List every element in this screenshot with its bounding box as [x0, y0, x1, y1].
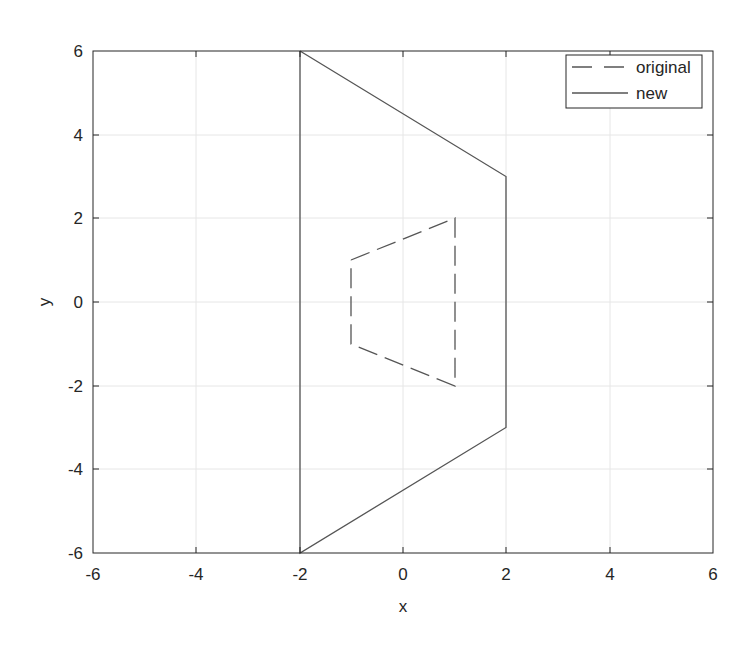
y-tick-label: -6 [68, 544, 83, 563]
x-axis-label: x [399, 597, 408, 616]
y-tick-label: 2 [74, 209, 83, 228]
x-tick-label: 6 [708, 565, 717, 584]
x-tick-labels: -6 -4 -2 0 2 4 6 [85, 565, 717, 584]
x-tick-label: 0 [398, 565, 407, 584]
y-tick-label: 0 [74, 293, 83, 312]
y-tick-labels: 6 4 2 0 -2 -4 -6 [68, 42, 83, 563]
legend-label-new: new [636, 84, 668, 103]
y-tick-label: -4 [68, 460, 83, 479]
y-axis-label: y [35, 297, 54, 306]
legend: original new [566, 55, 702, 108]
x-tick-label: -4 [188, 565, 203, 584]
x-tick-label: 2 [501, 565, 510, 584]
legend-label-original: original [636, 58, 691, 77]
x-tick-label: -2 [292, 565, 307, 584]
x-tick-label: 4 [605, 565, 614, 584]
y-tick-label: 6 [74, 42, 83, 61]
x-tick-label: -6 [85, 565, 100, 584]
chart-figure: -6 -4 -2 0 2 4 6 6 4 2 0 -2 -4 -6 x y or… [0, 0, 749, 656]
y-tick-label: -2 [68, 377, 83, 396]
y-tick-label: 4 [74, 126, 83, 145]
